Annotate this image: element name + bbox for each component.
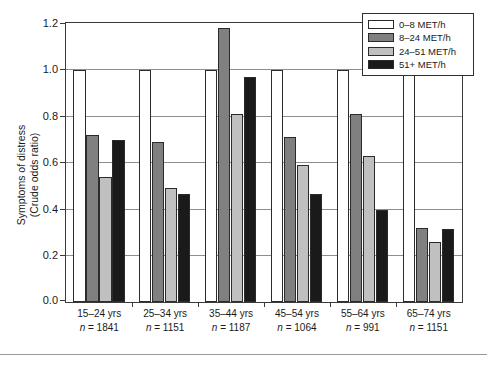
y-axis-tick-label: 0.0 (43, 294, 58, 306)
x-axis-category-count: n = 1151 (396, 321, 462, 335)
x-axis-category-name: 25–34 yrs (132, 307, 198, 321)
bar-group (198, 23, 264, 302)
legend-item: 51+ MET/h (368, 59, 468, 71)
legend-swatch (368, 20, 394, 29)
y-axis-tick-label: 1.2 (43, 17, 58, 29)
bar-group (264, 23, 330, 302)
bar (337, 70, 349, 302)
x-axis-category: 45–54 yrsn = 1064 (264, 307, 330, 335)
bar (73, 70, 85, 302)
x-axis-category: 35–44 yrsn = 1187 (198, 307, 264, 335)
x-axis-category: 55–64 yrsn = 991 (330, 307, 396, 335)
legend-item: 24–51 MET/h (368, 45, 468, 57)
x-axis-category: 15–24 yrsn = 1841 (66, 307, 132, 335)
bar (152, 142, 164, 302)
x-axis-category: 25–34 yrsn = 1151 (132, 307, 198, 335)
legend-label: 0–8 MET/h (399, 19, 445, 30)
y-axis-tick-label: 0.6 (43, 156, 58, 168)
bar (244, 77, 256, 302)
bar-group (132, 23, 198, 302)
bar (350, 114, 362, 302)
y-axis-tick-label: 0.4 (43, 203, 58, 215)
bar (376, 210, 388, 302)
bar (231, 114, 243, 302)
bar (218, 28, 230, 302)
legend-label: 8–24 MET/h (399, 32, 451, 43)
y-axis-tick-label: 0.2 (43, 249, 58, 261)
bar (416, 228, 428, 302)
bar (442, 229, 454, 302)
legend-swatch (368, 47, 394, 56)
x-axis-category-name: 65–74 yrs (396, 307, 462, 321)
x-axis-category: 65–74 yrsn = 1151 (396, 307, 462, 335)
figure: Symptoms of distress (Crude odds ratio) … (0, 0, 487, 375)
bar (363, 156, 375, 302)
y-axis-title: Symptoms of distress (Crude odds ratio) (10, 100, 44, 250)
legend: 0–8 MET/h8–24 MET/h24–51 MET/h51+ MET/h (362, 13, 474, 76)
x-axis-category-count: n = 991 (330, 321, 396, 335)
bar (205, 70, 217, 302)
x-axis-category-name: 35–44 yrs (198, 307, 264, 321)
y-axis-tick-label: 0.8 (43, 110, 58, 122)
legend-swatch (368, 60, 394, 69)
legend-label: 51+ MET/h (399, 59, 446, 70)
bar (271, 70, 283, 302)
legend-item: 0–8 MET/h (368, 18, 468, 30)
bar (297, 165, 309, 302)
legend-label: 24–51 MET/h (399, 46, 456, 57)
x-axis-category-count: n = 1151 (132, 321, 198, 335)
y-axis-title-line2: (Crude odds ratio) (27, 125, 40, 225)
bar (429, 242, 441, 302)
bar (139, 70, 151, 302)
bar (165, 188, 177, 302)
bar (86, 135, 98, 302)
y-axis-tick-label: 1.0 (43, 63, 58, 75)
x-axis-category-name: 15–24 yrs (66, 307, 132, 321)
bottom-divider (0, 354, 487, 355)
x-axis-category-name: 45–54 yrs (264, 307, 330, 321)
x-axis-labels: 15–24 yrsn = 184125–34 yrsn = 115135–44 … (65, 307, 463, 341)
legend-swatch (368, 33, 394, 42)
bar (284, 137, 296, 302)
bar (403, 70, 415, 302)
bar (178, 194, 190, 302)
x-axis-category-count: n = 1841 (66, 321, 132, 335)
bar (112, 140, 124, 302)
x-axis-category-name: 55–64 yrs (330, 307, 396, 321)
y-axis-title-line1: Symptoms of distress (15, 125, 28, 225)
x-axis-category-count: n = 1064 (264, 321, 330, 335)
bar-group (66, 23, 132, 302)
x-axis-category-count: n = 1187 (198, 321, 264, 335)
legend-item: 8–24 MET/h (368, 32, 468, 44)
bar (310, 194, 322, 302)
bar (99, 177, 111, 302)
